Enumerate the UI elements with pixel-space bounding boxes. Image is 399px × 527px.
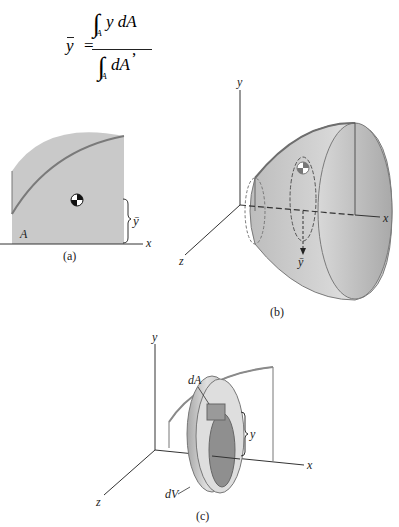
distance-label: y bbox=[249, 427, 256, 441]
z-axis-label: z bbox=[178, 254, 184, 268]
x-axis-label: x bbox=[306, 458, 313, 472]
figure-b: y z ȳ x (b) bbox=[178, 75, 392, 319]
area-region bbox=[12, 132, 124, 244]
area-element-dA bbox=[207, 404, 225, 420]
dV-leader bbox=[178, 487, 190, 494]
centroid-distance-brace bbox=[123, 199, 131, 243]
area-label: A bbox=[19, 227, 28, 241]
figure-canvas: ȳ A x (a) y z ȳ x (b) bbox=[0, 0, 399, 527]
caption-a: (a) bbox=[63, 249, 76, 263]
x-axis-label: x bbox=[145, 236, 152, 250]
area-element-label: dA bbox=[188, 373, 202, 387]
z-axis bbox=[185, 205, 240, 255]
x-axis-label: x bbox=[382, 211, 389, 225]
z-axis-label: z bbox=[95, 495, 101, 509]
y-axis-label: y bbox=[151, 330, 158, 344]
caption-c: (c) bbox=[196, 509, 209, 523]
centroid-symbol bbox=[297, 162, 309, 174]
centroid-label: ȳ bbox=[297, 255, 304, 269]
figure-a: ȳ A x (a) bbox=[0, 132, 152, 263]
ring-hole bbox=[209, 413, 235, 487]
y-axis-label: y bbox=[236, 75, 243, 89]
centroid-symbol bbox=[71, 194, 83, 206]
caption-b: (b) bbox=[270, 305, 284, 319]
figure-c: y z x y dA dV (c) bbox=[95, 330, 313, 523]
volume-element-label: dV bbox=[165, 487, 180, 501]
z-axis bbox=[104, 450, 155, 495]
centroid-label: ȳ bbox=[131, 213, 139, 228]
